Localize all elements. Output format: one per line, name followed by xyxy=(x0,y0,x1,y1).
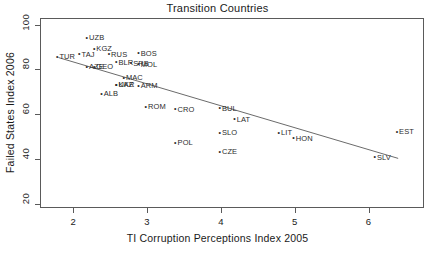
y-tick-label: 40 xyxy=(20,148,31,159)
x-tick-mark xyxy=(147,208,148,213)
data-point: •BOS xyxy=(137,50,157,58)
data-point: •EST xyxy=(396,128,414,136)
x-tick-mark xyxy=(221,208,222,213)
data-point: •LAT xyxy=(233,116,250,124)
x-tick-label: 6 xyxy=(366,216,372,227)
x-axis-label: TI Corruption Perceptions Index 2005 xyxy=(0,232,435,244)
data-point: •SLO xyxy=(218,129,237,137)
data-point-label: UZB xyxy=(89,33,104,42)
data-point: •CRO xyxy=(174,106,194,114)
data-point-label: ARM xyxy=(141,81,158,90)
data-point: •POL xyxy=(174,139,193,147)
data-point-label: BUL xyxy=(222,104,237,113)
data-point-label: SLO xyxy=(222,128,237,137)
chart-title: Transition Countries xyxy=(0,2,435,14)
data-point: •SLV xyxy=(374,154,391,162)
x-tick-mark xyxy=(295,208,296,213)
data-point-label: CRO xyxy=(178,105,195,114)
y-tick-mark xyxy=(35,204,40,205)
y-tick-label: 80 xyxy=(20,58,31,69)
data-point-label: HON xyxy=(296,134,313,143)
x-tick-mark xyxy=(73,208,74,213)
data-point-label: POL xyxy=(178,138,193,147)
data-point-label: CZE xyxy=(222,147,237,156)
x-tick-label: 2 xyxy=(70,216,76,227)
data-point-label: TAJ xyxy=(82,50,95,59)
data-point-label: LIT xyxy=(281,128,292,137)
x-tick-label: 5 xyxy=(292,216,298,227)
x-tick-mark xyxy=(369,208,370,213)
data-point-label: EST xyxy=(399,127,414,136)
y-tick-mark xyxy=(35,114,40,115)
data-point-label: LAT xyxy=(237,115,251,124)
x-tick-label: 4 xyxy=(218,216,224,227)
data-point: •ALB xyxy=(100,90,118,98)
data-point: •KAZ xyxy=(115,81,133,89)
data-point: •LIT xyxy=(278,129,293,137)
data-point: •TUR xyxy=(56,53,75,61)
y-tick-label: 20 xyxy=(20,193,31,204)
x-tick-label: 3 xyxy=(144,216,150,227)
data-point: •BUL xyxy=(218,105,236,113)
y-tick-label: 60 xyxy=(20,103,31,114)
data-point-label: MOL xyxy=(141,60,158,69)
data-point: •GEO xyxy=(93,63,113,71)
data-point: •UZB xyxy=(86,34,105,42)
data-point-label: GEO xyxy=(96,62,113,71)
y-tick-label: 100 xyxy=(20,14,31,31)
y-tick-mark xyxy=(35,69,40,70)
data-point-label: BOS xyxy=(141,49,157,58)
data-point: •MOL xyxy=(137,61,157,69)
data-point-label: SLV xyxy=(377,153,391,162)
data-point: •ROM xyxy=(145,104,166,112)
data-point: •CZE xyxy=(218,148,237,156)
data-point-label: KAZ xyxy=(118,80,133,89)
data-point: •TAJ xyxy=(78,51,95,59)
data-point-label: TUR xyxy=(59,52,75,61)
scatter-chart: Transition Countries Failed States Index… xyxy=(0,0,435,262)
plot-area: •UZB•KGZ•TAJ•RUS•BOS•TUR•BLR•SRB•MOL•AZE… xyxy=(40,18,424,208)
y-tick-mark xyxy=(35,25,40,26)
data-point-label: ROM xyxy=(148,103,166,112)
y-axis-label: Failed States Index 2006 xyxy=(4,36,16,190)
data-point: •HON xyxy=(292,135,312,143)
data-point: •ARM xyxy=(137,82,157,90)
y-tick-mark xyxy=(35,159,40,160)
data-point-label: ALB xyxy=(104,89,118,98)
